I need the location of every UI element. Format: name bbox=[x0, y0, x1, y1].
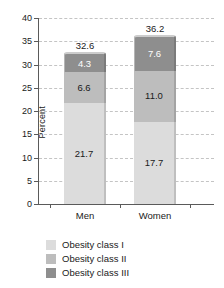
x-axis-label-women: Women bbox=[139, 210, 172, 221]
legend-swatch-class-i bbox=[46, 240, 56, 250]
bar-group-men: 21.76.64.332.6 bbox=[64, 52, 106, 204]
y-tick-label: 25 bbox=[22, 83, 32, 92]
bar-stack: 17.711.07.636.2 bbox=[134, 35, 176, 204]
bar-segment[interactable]: 6.6 bbox=[64, 72, 106, 103]
legend-label-class-i: Obesity class I bbox=[62, 240, 124, 250]
y-tick-label: 10 bbox=[22, 153, 32, 162]
legend-label-class-ii: Obesity class II bbox=[62, 254, 126, 264]
segment-value-label: 21.7 bbox=[75, 149, 94, 159]
y-axis-line bbox=[38, 18, 39, 204]
gridline bbox=[39, 18, 214, 19]
gridline bbox=[39, 41, 214, 42]
legend-label-class-iii: Obesity class III bbox=[62, 268, 129, 278]
y-tick-label: 5 bbox=[27, 176, 32, 185]
bar-segment[interactable]: 11.0 bbox=[134, 71, 176, 122]
chart-legend: Obesity class I Obesity class II Obesity… bbox=[46, 239, 129, 279]
bar-stack: 21.76.64.332.6 bbox=[64, 52, 106, 204]
segment-value-label: 4.3 bbox=[78, 59, 91, 69]
x-tick-mark bbox=[50, 204, 51, 208]
plot-area: Percent 0510152025303540 21.76.64.332.61… bbox=[38, 18, 214, 204]
bar-segment[interactable]: 4.3 bbox=[64, 52, 106, 72]
x-tick-mark bbox=[120, 204, 121, 208]
y-tick-label: 30 bbox=[22, 60, 32, 69]
segment-value-label: 6.6 bbox=[77, 83, 90, 93]
y-tick-label: 40 bbox=[22, 14, 32, 23]
legend-item-obesity-class-ii: Obesity class II bbox=[46, 253, 129, 265]
bar-total-label: 36.2 bbox=[146, 24, 165, 36]
legend-swatch-class-ii bbox=[46, 254, 56, 264]
x-tick-mark bbox=[190, 204, 191, 208]
x-axis-label-men: Men bbox=[76, 210, 94, 221]
bar-segment[interactable]: 21.7 bbox=[64, 103, 106, 204]
bar-group-women: 17.711.07.636.2 bbox=[134, 35, 176, 204]
segment-value-label: 7.6 bbox=[148, 49, 161, 59]
segment-value-label: 11.0 bbox=[145, 91, 163, 101]
bar-segment[interactable]: 17.7 bbox=[134, 122, 176, 204]
y-tick-label: 15 bbox=[22, 130, 32, 139]
segment-value-label: 17.7 bbox=[145, 158, 164, 168]
legend-swatch-class-iii bbox=[46, 268, 56, 278]
y-tick-label: 20 bbox=[22, 107, 32, 116]
legend-item-obesity-class-i: Obesity class I bbox=[46, 239, 129, 251]
bar-total-label: 32.6 bbox=[76, 41, 95, 53]
bar-segment[interactable]: 7.6 bbox=[134, 35, 176, 70]
x-axis-line bbox=[38, 204, 214, 205]
stacked-bar-chart: Percent 0510152025303540 21.76.64.332.61… bbox=[0, 0, 224, 288]
y-tick-label: 0 bbox=[27, 200, 32, 209]
legend-item-obesity-class-iii: Obesity class III bbox=[46, 267, 129, 279]
y-tick-label: 35 bbox=[22, 37, 32, 46]
